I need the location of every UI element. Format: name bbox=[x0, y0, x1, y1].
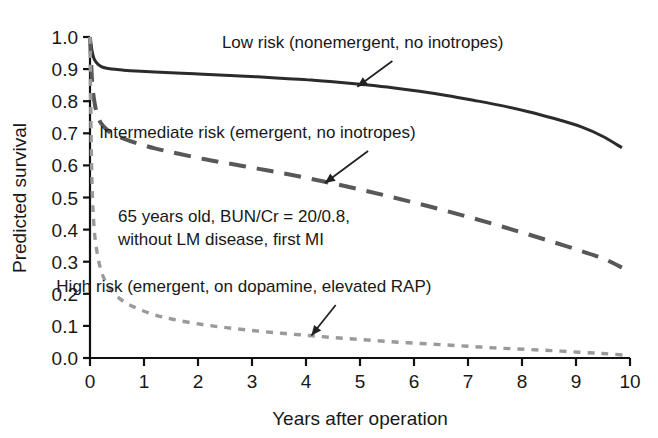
x-tick-label: 0 bbox=[85, 371, 96, 392]
y-tick-label: 0.4 bbox=[52, 220, 79, 241]
x-tick-label: 7 bbox=[463, 371, 474, 392]
patient-note-line-1: 65 years old, BUN/Cr = 20/0.8, bbox=[118, 207, 350, 226]
y-tick-label: 0.6 bbox=[52, 155, 78, 176]
y-tick-label: 0.0 bbox=[52, 348, 78, 369]
x-tick-label: 2 bbox=[193, 371, 204, 392]
x-tick-label: 4 bbox=[301, 371, 312, 392]
y-tick-label: 0.5 bbox=[52, 188, 78, 209]
y-tick-label: 0.9 bbox=[52, 59, 78, 80]
x-tick-label: 3 bbox=[247, 371, 258, 392]
x-axis-title: Years after operation bbox=[272, 408, 448, 429]
patient-note-line-2: without LM disease, first MI bbox=[117, 230, 324, 249]
x-tick-label: 6 bbox=[409, 371, 420, 392]
x-tick-label: 10 bbox=[619, 371, 640, 392]
chart-canvas: 0.00.10.20.30.40.50.60.70.80.91.0 012345… bbox=[0, 0, 658, 438]
series-label-2: Intermediate risk (emergent, no inotrope… bbox=[99, 123, 416, 142]
x-tick-label: 5 bbox=[355, 371, 366, 392]
x-tick-label: 9 bbox=[571, 371, 582, 392]
series-label-3: High risk (emergent, on dopamine, elevat… bbox=[56, 277, 431, 296]
y-axis-title: Predicted survival bbox=[9, 123, 30, 273]
y-tick-label: 0.7 bbox=[52, 123, 78, 144]
series-label-1: Low risk (nonemergent, no inotropes) bbox=[222, 33, 504, 52]
y-tick-label: 0.3 bbox=[52, 252, 78, 273]
x-tick-label: 8 bbox=[517, 371, 528, 392]
y-tick-label: 0.1 bbox=[52, 316, 78, 337]
x-tick-label: 1 bbox=[139, 371, 150, 392]
y-tick-label: 1.0 bbox=[52, 27, 78, 48]
survival-chart: 0.00.10.20.30.40.50.60.70.80.91.0 012345… bbox=[0, 0, 658, 438]
y-tick-label: 0.8 bbox=[52, 91, 78, 112]
